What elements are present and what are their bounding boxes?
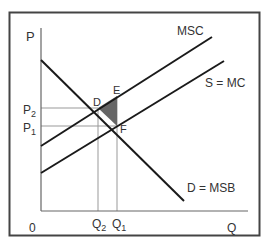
point-d-label: D: [93, 96, 101, 108]
origin-label: 0: [29, 221, 36, 235]
supply-mc-label: S = MC: [205, 76, 246, 90]
q2-label: Q2: [92, 217, 106, 233]
q1-label: Q1: [112, 217, 126, 233]
diagram-frame: [10, 13, 260, 236]
p2-label: P2: [23, 103, 36, 119]
y-axis-label: P: [26, 29, 35, 44]
externality-diagram: P 0 Q MSC S = MC D = MSB D E F P2 P1 Q2 …: [0, 0, 267, 241]
point-f-label: F: [120, 123, 127, 135]
demand-msb-curve: [41, 60, 184, 201]
msc-label: MSC: [177, 24, 204, 38]
p1-label: P1: [23, 121, 36, 137]
x-axis-label: Q: [227, 221, 236, 235]
demand-msb-label: D = MSB: [187, 181, 235, 195]
point-e-label: E: [113, 84, 120, 96]
supply-mc-curve: [41, 61, 224, 173]
